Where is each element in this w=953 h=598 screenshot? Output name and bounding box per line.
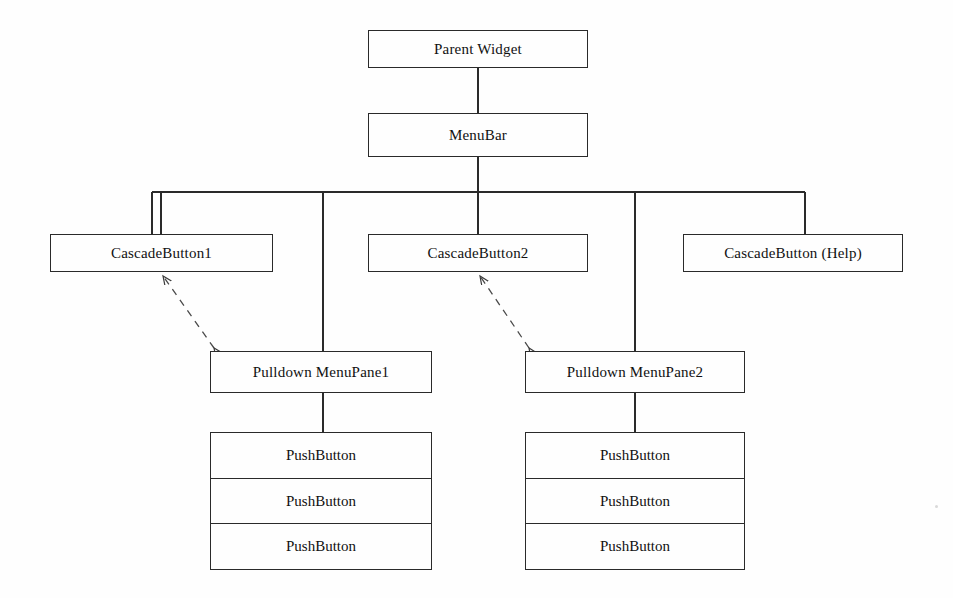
node-pushbutton[interactable]: PushButton bbox=[211, 433, 431, 479]
node-menubar[interactable]: MenuBar bbox=[368, 113, 588, 157]
node-cascade-button-2[interactable]: CascadeButton2 bbox=[368, 234, 588, 272]
assoc-cascadebutton1-menupane1 bbox=[163, 276, 214, 348]
pushbutton-stack-1: PushButton PushButton PushButton bbox=[210, 432, 432, 570]
node-pushbutton[interactable]: PushButton bbox=[526, 479, 744, 525]
node-pushbutton[interactable]: PushButton bbox=[526, 433, 744, 479]
diagram-canvas: Parent Widget MenuBar CascadeButton1 Cas… bbox=[0, 0, 953, 598]
connector-lines bbox=[0, 0, 953, 598]
node-pulldown-menupane-1[interactable]: Pulldown MenuPane1 bbox=[210, 351, 432, 393]
node-label: CascadeButton (Help) bbox=[724, 245, 862, 262]
node-parent-widget[interactable]: Parent Widget bbox=[368, 30, 588, 68]
node-label: CascadeButton2 bbox=[427, 245, 528, 262]
node-cascade-button-1[interactable]: CascadeButton1 bbox=[50, 234, 273, 272]
node-label: Parent Widget bbox=[434, 41, 522, 58]
pushbutton-stack-2: PushButton PushButton PushButton bbox=[525, 432, 745, 570]
assoc-cascadebutton2-menupane2 bbox=[480, 276, 529, 348]
node-label: CascadeButton1 bbox=[111, 245, 212, 262]
scan-speck bbox=[935, 505, 938, 508]
node-pushbutton[interactable]: PushButton bbox=[211, 524, 431, 569]
node-label: Pulldown MenuPane1 bbox=[253, 364, 390, 381]
node-label: MenuBar bbox=[449, 127, 507, 144]
node-pushbutton[interactable]: PushButton bbox=[211, 479, 431, 525]
node-cascade-button-help[interactable]: CascadeButton (Help) bbox=[683, 234, 903, 272]
node-pushbutton[interactable]: PushButton bbox=[526, 524, 744, 569]
node-pulldown-menupane-2[interactable]: Pulldown MenuPane2 bbox=[525, 351, 745, 393]
node-label: Pulldown MenuPane2 bbox=[567, 364, 704, 381]
